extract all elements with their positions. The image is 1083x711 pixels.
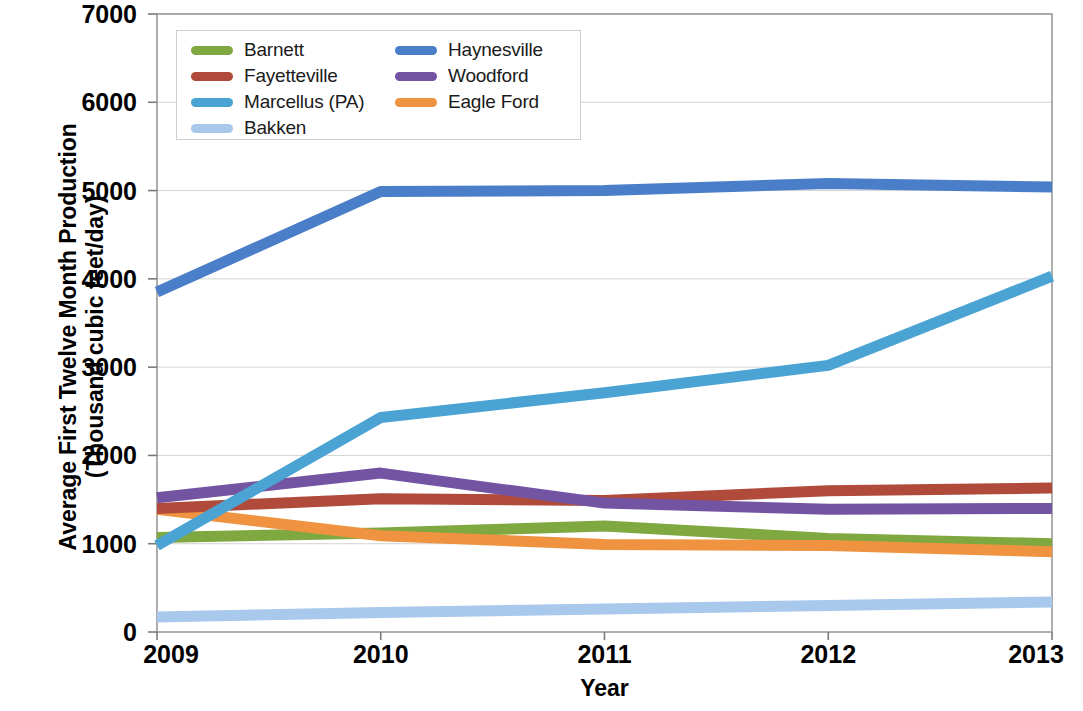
legend-color-swatch	[395, 46, 437, 55]
legend-entry[interactable]: Barnett	[191, 38, 304, 62]
legend-label: Haynesville	[448, 39, 543, 61]
legend-color-swatch	[395, 72, 437, 81]
legend-color-swatch	[191, 72, 233, 81]
legend-label: Eagle Ford	[448, 91, 539, 113]
legend-label: Bakken	[244, 117, 306, 139]
legend-label: Barnett	[244, 39, 304, 61]
legend-entries: BarnettHaynesvilleFayettevilleWoodfordMa…	[177, 31, 580, 139]
x-axis-tick-label: 2011	[577, 640, 631, 669]
legend-entry[interactable]: Eagle Ford	[395, 90, 539, 114]
x-axis-tick-label: 2013	[1008, 640, 1064, 669]
x-axis-tick-label: 2012	[800, 640, 856, 669]
line-chart: Average First Twelve Month Production (T…	[0, 0, 1083, 711]
legend-color-swatch	[191, 124, 233, 133]
legend-color-swatch	[395, 98, 437, 107]
legend-label: Marcellus (PA)	[244, 91, 364, 113]
legend: BarnettHaynesvilleFayettevilleWoodfordMa…	[176, 30, 581, 140]
legend-entry[interactable]: Fayetteville	[191, 64, 338, 88]
legend-entry[interactable]: Bakken	[191, 116, 306, 140]
legend-color-swatch	[191, 98, 233, 107]
x-axis-tick-label: 2010	[353, 640, 409, 669]
legend-entry[interactable]: Haynesville	[395, 38, 543, 62]
legend-entry[interactable]: Woodford	[395, 64, 528, 88]
legend-label: Fayetteville	[244, 65, 338, 87]
legend-label: Woodford	[448, 65, 528, 87]
legend-color-swatch	[191, 46, 233, 55]
legend-entry[interactable]: Marcellus (PA)	[191, 90, 364, 114]
x-axis-title: Year	[157, 675, 1052, 702]
x-axis-tick-label: 2009	[143, 640, 199, 669]
